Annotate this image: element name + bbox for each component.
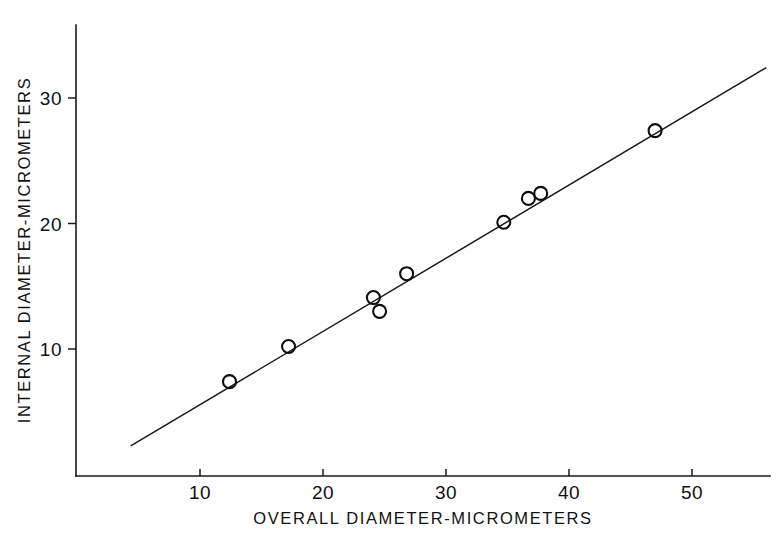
x-tick-label-10: 10 [189,482,211,503]
plot-background [0,0,781,546]
x-tick-label-20: 20 [312,482,334,503]
y-tick-label-10: 10 [40,339,62,360]
y-axis-title: INTERNAL DIAMETER-MICROMETERS [15,77,33,423]
x-axis-title: OVERALL DIAMETER-MICROMETERS [253,509,592,527]
scatter-plot: 1020304050 102030 OVERALL DIAMETER-MICRO… [0,0,781,546]
y-tick-label-30: 30 [40,88,62,109]
y-tick-label-20: 20 [40,214,62,235]
x-tick-label-30: 30 [435,482,457,503]
chart-figure: 1020304050 102030 OVERALL DIAMETER-MICRO… [0,0,781,546]
x-tick-label-40: 40 [558,482,580,503]
x-tick-label-50: 50 [681,482,703,503]
